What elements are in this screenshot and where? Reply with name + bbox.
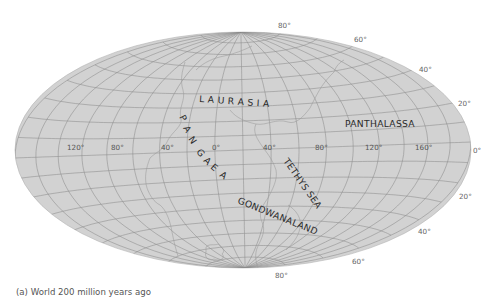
pangaea-map: 120° 80° 40° 0° 40° 80° 120° 160° 80° 60… [0,0,500,307]
figure-caption: (a) World 200 million years ago [16,287,151,297]
lon-label-40w: 40° [161,143,174,152]
lon-label-160e: 160° [415,143,432,152]
lon-label-120e: 120° [365,143,382,152]
lon-label-40e: 40° [263,143,276,152]
label-panthalassa: PANTHALASSA [345,118,415,129]
lon-label-80e: 80° [315,143,328,152]
lon-label-80w: 80° [111,143,124,152]
lat-label-40s: 40° [418,227,431,236]
lat-label-40n: 40° [419,65,432,74]
lon-label-0: 0° [212,143,220,152]
lat-label-60s: 60° [352,257,365,266]
lat-label-20s: 20° [459,192,472,201]
lat-label-80s: 80° [275,271,288,280]
lat-label-80n: 80° [278,21,291,30]
lat-label-60n: 60° [354,35,367,44]
lat-label-20n: 20° [458,99,471,108]
lat-label-equator: 0° [473,146,481,155]
lon-label-120w: 120° [67,143,84,152]
